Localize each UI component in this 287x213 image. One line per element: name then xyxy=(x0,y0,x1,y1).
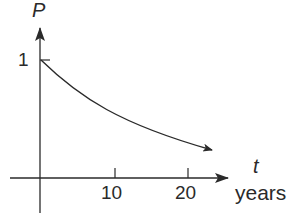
y-axis-label: P xyxy=(32,0,45,20)
y-tick-label-1: 1 xyxy=(18,50,29,69)
x-tick-label-20: 20 xyxy=(175,183,196,202)
x-axis-unit: years xyxy=(235,182,286,203)
x-axis-label: t xyxy=(253,156,259,176)
decay-curve xyxy=(41,60,212,150)
x-tick-label-10: 10 xyxy=(101,183,122,202)
decay-chart: P 1 10 20 t years xyxy=(0,0,287,213)
